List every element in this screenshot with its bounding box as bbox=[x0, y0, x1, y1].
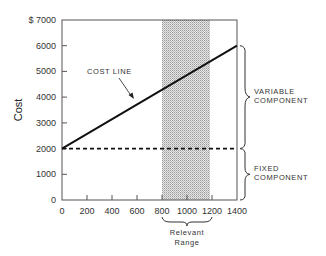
cost-chart: 0 1000 2000 3000 4000 5000 6000 $ 7000 0… bbox=[0, 0, 326, 256]
y-tick-label: 6000 bbox=[36, 41, 56, 51]
variable-component-label: VARIABLE bbox=[254, 87, 295, 96]
x-tick-label: 1200 bbox=[202, 206, 222, 216]
variable-component-label: COMPONENT bbox=[254, 96, 308, 105]
x-tick-label: 0 bbox=[59, 206, 64, 216]
y-tick-label: 2000 bbox=[36, 144, 56, 154]
variable-brace-icon bbox=[240, 46, 250, 149]
relevant-range-label: Relevant bbox=[170, 228, 205, 237]
x-tick-label: 600 bbox=[129, 206, 144, 216]
fixed-component-label: COMPONENT bbox=[254, 173, 308, 182]
x-tick-label: 200 bbox=[79, 206, 94, 216]
y-axis-ticks bbox=[62, 46, 67, 175]
cost-line-label: COST LINE bbox=[87, 67, 132, 76]
relevant-range-shading bbox=[162, 20, 210, 200]
y-tick-label: 5000 bbox=[36, 66, 56, 76]
relevant-range-label: Range bbox=[174, 238, 199, 247]
y-tick-label: 3000 bbox=[36, 118, 56, 128]
relevant-range-brace-icon bbox=[162, 217, 212, 226]
x-tick-label: 800 bbox=[154, 206, 169, 216]
x-tick-label: 1400 bbox=[227, 206, 247, 216]
cost-line bbox=[62, 46, 237, 149]
y-tick-label: 4000 bbox=[36, 92, 56, 102]
y-axis-title: Cost bbox=[12, 99, 24, 122]
plot-frame bbox=[62, 20, 237, 200]
y-tick-label: 0 bbox=[51, 195, 56, 205]
x-tick-label: 1000 bbox=[177, 206, 197, 216]
x-axis-labels: 0 200 400 600 800 1000 1200 1400 bbox=[59, 206, 247, 216]
y-tick-label: $ 7000 bbox=[28, 15, 56, 25]
fixed-component-label: FIXED bbox=[254, 164, 279, 173]
y-tick-label: 1000 bbox=[36, 169, 56, 179]
y-axis-labels: 0 1000 2000 3000 4000 5000 6000 $ 7000 bbox=[28, 15, 56, 205]
fixed-brace-icon bbox=[240, 149, 250, 200]
x-tick-label: 400 bbox=[104, 206, 119, 216]
